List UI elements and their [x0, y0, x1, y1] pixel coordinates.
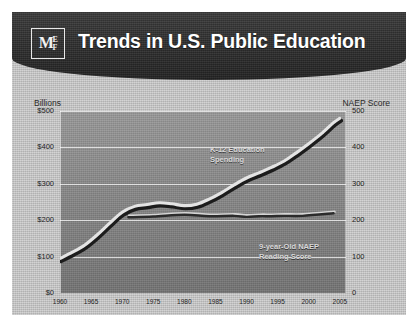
- y-tick-left: $100: [37, 252, 54, 261]
- y-tick-left: $300: [37, 179, 54, 188]
- logo-monogram: M E F: [39, 35, 57, 52]
- logo-letter-m: M: [39, 35, 54, 51]
- annotation-spending: K-12 Education Spending: [210, 145, 265, 164]
- chart-series-svg: [60, 111, 346, 293]
- y-tick-right: 200: [352, 215, 365, 224]
- slide-header-banner: M E F Trends in U.S. Public Education: [12, 12, 406, 80]
- x-tick: 1990: [239, 298, 253, 305]
- y-tick-left: $200: [37, 215, 54, 224]
- x-tick: 2000: [301, 298, 315, 305]
- right-axis-title: NAEP Score: [342, 98, 390, 108]
- x-tick: 1985: [208, 298, 222, 305]
- spending-line: [60, 118, 340, 258]
- y-tick-right: 100: [352, 252, 365, 261]
- annotation-naep-line1: 9-year-Old NAEP: [259, 242, 319, 252]
- x-tick: 1995: [270, 298, 284, 305]
- y-tick-right: 0: [352, 288, 356, 297]
- y-tick-right: 500: [352, 106, 365, 115]
- x-tick: 1965: [84, 298, 98, 305]
- logo-letters-ef: E F: [52, 36, 57, 52]
- x-tick: 1980: [177, 298, 191, 305]
- y-tick-right: 300: [352, 179, 365, 188]
- mef-logo: M E F: [31, 28, 65, 59]
- y-tick-left: $500: [37, 106, 54, 115]
- y-tick-left: $0: [46, 288, 54, 297]
- x-tick: 1975: [146, 298, 160, 305]
- annotation-naep: 9-year-Old NAEP Reading Score: [259, 242, 319, 261]
- chart-plot-area: [60, 111, 346, 293]
- page-title: Trends in U.S. Public Education: [78, 30, 365, 53]
- x-tick: 1970: [115, 298, 129, 305]
- slide-canvas: M E F Trends in U.S. Public Education Bi…: [12, 12, 406, 315]
- x-tick: 2005: [333, 298, 347, 305]
- logo-letter-f: F: [52, 44, 57, 52]
- annotation-spending-line1: K-12 Education: [210, 145, 265, 155]
- annotation-naep-line2: Reading Score: [259, 252, 319, 262]
- x-tick: 1960: [53, 298, 67, 305]
- spending-line-shadow: [61, 121, 341, 261]
- y-tick-right: 400: [352, 142, 365, 151]
- annotation-spending-line2: Spending: [210, 155, 265, 165]
- y-tick-left: $400: [37, 142, 54, 151]
